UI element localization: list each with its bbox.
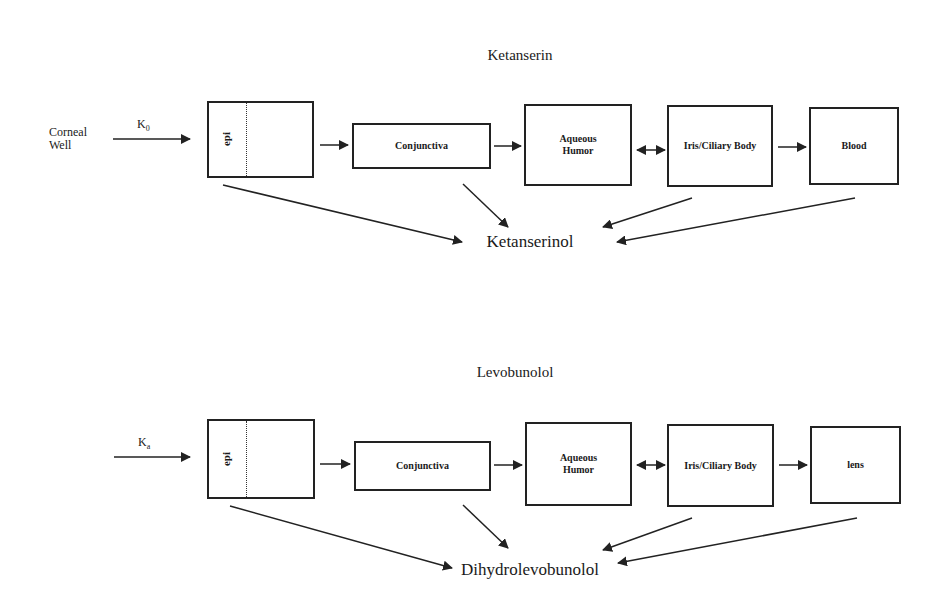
epi-divider bbox=[246, 421, 247, 497]
rate-symbol: K bbox=[137, 117, 146, 131]
epi-label: epi bbox=[220, 447, 232, 471]
rate-subscript: a bbox=[147, 442, 151, 451]
corneal-well-label: Corneal Well bbox=[49, 126, 87, 152]
blood-compartment: Blood bbox=[809, 107, 899, 185]
conjunctiva-compartment: Conjunctiva bbox=[354, 441, 491, 491]
diagram-title: Levobunolol bbox=[455, 364, 575, 381]
rate-constant-label: K0 bbox=[137, 117, 150, 133]
label-line-2: Well bbox=[49, 139, 87, 152]
iris-ciliary-body-compartment: Iris/Ciliary Body bbox=[667, 105, 773, 187]
rate-subscript: 0 bbox=[146, 124, 150, 133]
metabolite-label: Ketanserinol bbox=[470, 232, 590, 252]
lens-compartment: lens bbox=[810, 426, 901, 504]
rate-symbol: K bbox=[138, 435, 147, 449]
conjunctiva-compartment: Conjunctiva bbox=[352, 123, 491, 169]
flow-arrows bbox=[0, 0, 949, 591]
metabolite-label: Dihydrolevobunolol bbox=[440, 560, 620, 580]
iris-ciliary-body-compartment: Iris/Ciliary Body bbox=[667, 424, 774, 507]
diagram-title: Ketanserin bbox=[460, 47, 580, 64]
rate-constant-label: Ka bbox=[138, 435, 150, 451]
cornea-compartment: epi bbox=[207, 101, 314, 178]
epi-label: epi bbox=[220, 127, 232, 151]
epi-divider bbox=[246, 103, 247, 176]
aqueous-humor-compartment: Aqueous Humor bbox=[525, 422, 632, 506]
aqueous-humor-compartment: Aqueous Humor bbox=[524, 104, 632, 186]
cornea-compartment: epi bbox=[207, 419, 315, 499]
